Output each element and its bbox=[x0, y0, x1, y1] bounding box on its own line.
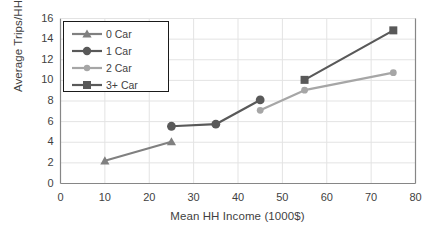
y-tick-label: 0 bbox=[28, 178, 54, 189]
data-point-marker bbox=[301, 76, 309, 84]
triangle-marker-icon bbox=[70, 27, 104, 41]
data-point-marker bbox=[167, 137, 176, 145]
y-tick-label: 8 bbox=[28, 95, 54, 106]
chart-legend: 0 Car 1 Car 2 Car 3+ Car bbox=[63, 21, 169, 92]
legend-item-label: 0 Car bbox=[104, 28, 132, 40]
y-tick-label: 16 bbox=[28, 13, 54, 24]
y-tick-label: 4 bbox=[28, 136, 54, 147]
square-marker-icon bbox=[70, 78, 104, 92]
legend-marker bbox=[84, 65, 90, 71]
legend-item-0-car[interactable]: 0 Car bbox=[70, 26, 132, 42]
y-tick-label: 14 bbox=[28, 33, 54, 44]
data-point-marker bbox=[256, 96, 265, 105]
circle-marker-icon bbox=[70, 44, 104, 58]
data-point-marker bbox=[390, 69, 397, 76]
x-tick-label: 20 bbox=[134, 192, 164, 203]
x-tick-label: 40 bbox=[223, 192, 253, 203]
series-line-3 bbox=[305, 30, 394, 80]
legend-item-label: 3+ Car bbox=[104, 79, 138, 91]
y-tick-label: 12 bbox=[28, 54, 54, 65]
chart-container: Average Trips/HH Mean HH Income (1000$) … bbox=[0, 0, 440, 236]
x-tick-label: 30 bbox=[179, 192, 209, 203]
data-point-marker bbox=[257, 107, 264, 114]
x-axis-title: Mean HH Income (1000$) bbox=[60, 210, 415, 222]
data-point-marker bbox=[301, 87, 308, 94]
x-tick-label: 50 bbox=[267, 192, 297, 203]
y-axis-title: Average Trips/HH bbox=[12, 0, 24, 126]
y-tick-label: 6 bbox=[28, 116, 54, 127]
x-tick-label: 10 bbox=[90, 192, 120, 203]
x-tick-label: 70 bbox=[356, 192, 386, 203]
y-tick-label: 2 bbox=[28, 157, 54, 168]
legend-item-label: 2 Car bbox=[104, 62, 132, 74]
data-point-marker bbox=[167, 122, 176, 131]
x-tick-label: 60 bbox=[312, 192, 342, 203]
legend-item-label: 1 Car bbox=[104, 45, 132, 57]
data-point-marker bbox=[389, 26, 397, 34]
legend-item-3plus-car[interactable]: 3+ Car bbox=[70, 77, 138, 93]
x-tick-label: 0 bbox=[46, 192, 76, 203]
legend-item-2-car[interactable]: 2 Car bbox=[70, 60, 132, 76]
data-point-marker bbox=[211, 120, 220, 129]
y-tick-label: 10 bbox=[28, 74, 54, 85]
legend-item-1-car[interactable]: 1 Car bbox=[70, 43, 132, 59]
x-tick-label: 80 bbox=[401, 192, 431, 203]
legend-marker bbox=[83, 47, 91, 55]
series-line-0 bbox=[105, 142, 172, 161]
legend-marker bbox=[83, 81, 91, 89]
circle-small-marker-icon bbox=[70, 61, 104, 75]
